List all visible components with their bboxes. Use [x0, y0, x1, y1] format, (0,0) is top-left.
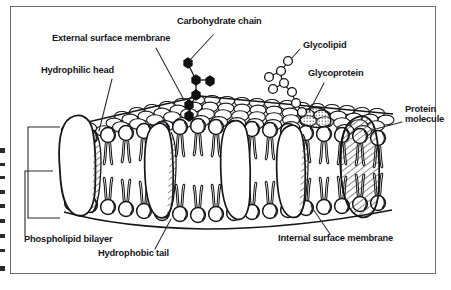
label-protein-molecule: Protein molecule [405, 104, 444, 124]
protein-mid-a [145, 123, 176, 218]
label-hydrophobic-tail: Hydrophobic tail [98, 248, 169, 258]
membrane-artboard [0, 0, 451, 290]
protein-mid-b [221, 121, 251, 220]
label-internal-surface-membrane: Internal surface membrane [278, 233, 393, 243]
membrane-diagram-figure: Carbohydrate chain External surface memb… [0, 0, 451, 290]
leader-carbohydrate-chain [190, 35, 213, 60]
label-phospholipid-bilayer: Phospholipid bilayer [24, 234, 112, 244]
leader-external-surface [156, 48, 184, 100]
protein-left [59, 115, 101, 215]
label-external-surface-membrane: External surface membrane [52, 33, 170, 43]
label-hydrophilic-head: Hydrophilic head [41, 65, 114, 75]
label-carbohydrate-chain: Carbohydrate chain [177, 16, 262, 26]
protein-mid-c [277, 125, 308, 217]
leader-glycolipid [291, 49, 300, 59]
membrane-slab [59, 95, 394, 232]
label-glycoprotein: Glycoprotein [308, 68, 364, 78]
bilayer-bracket [25, 127, 60, 236]
protein-right [340, 116, 379, 217]
label-glycolipid: Glycolipid [303, 40, 346, 50]
